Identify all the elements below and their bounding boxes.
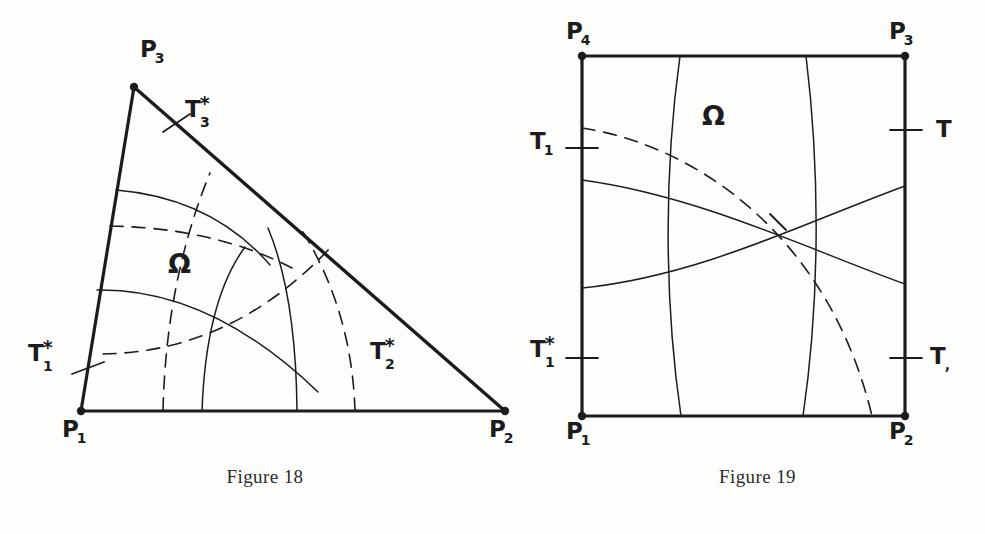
tick-label-t1-star: T*1 <box>28 342 54 365</box>
vertex-dot-p4 <box>578 52 586 60</box>
figure-18: P3 P1 P2 T*1 T*2 T*3 Ω Figure 18 <box>0 0 530 534</box>
vertex-dot-p3 <box>130 83 138 91</box>
vertex-label-p2: P2 <box>889 420 916 443</box>
solid-curve-horizontal-upper <box>582 180 905 284</box>
label-subscript: 3 <box>200 115 210 129</box>
vertex-label-p3: P3 <box>889 20 916 43</box>
label-subscript: 3 <box>155 50 165 66</box>
label-base: T <box>936 116 952 142</box>
tick-label-t-upper-right: T <box>936 118 952 141</box>
figure-19-drawing <box>530 0 985 534</box>
solid-curve-vertical-right <box>803 56 816 416</box>
label-subscript: 1 <box>77 430 87 446</box>
label-star: * <box>200 92 210 114</box>
solid-arc-inner <box>97 290 318 392</box>
tick-label-t1-star: T*1 <box>530 338 556 361</box>
tick-mark-center-cross <box>770 214 786 230</box>
label-subscript: 1 <box>581 432 591 448</box>
dashed-curve-diagonal <box>582 128 872 416</box>
label-subscript: 1 <box>43 359 53 373</box>
vertex-label-p2: P2 <box>489 418 516 441</box>
tick-label-t2-star: T*2 <box>370 340 396 363</box>
figure-19-caption: Figure 19 <box>530 466 985 488</box>
label-subscript: 2 <box>504 430 514 446</box>
figure-18-caption: Figure 18 <box>0 466 530 488</box>
figure-18-drawing <box>0 0 530 534</box>
triangle-edge-left <box>81 87 134 411</box>
solid-curve-vertical-left <box>668 56 681 416</box>
vertex-label-p4: P4 <box>566 20 593 43</box>
label-subscript: 1 <box>545 355 555 369</box>
omega-symbol-fig18: Ω <box>168 248 191 279</box>
vertex-dot-p2 <box>501 407 509 415</box>
tick-label-t-lower-right: T, <box>930 345 951 368</box>
label-base: T <box>185 96 201 122</box>
label-subscript: 2 <box>904 432 914 448</box>
label-subscript: 1 <box>544 142 554 158</box>
solid-curve-left <box>202 247 245 411</box>
label-subscript: , <box>945 357 950 373</box>
label-subscript: 3 <box>904 32 914 48</box>
tick-label-t3-star: T*3 <box>185 98 211 121</box>
figure-19: P4 P3 P1 P2 T1 T*1 T T, Ω Figure 19 <box>530 0 985 534</box>
label-star: * <box>43 336 53 358</box>
label-star: * <box>385 334 395 356</box>
label-subscript: 4 <box>581 32 591 48</box>
dashed-arc-outer <box>103 248 330 354</box>
vertex-label-p1: P1 <box>62 418 89 441</box>
label-base: T <box>530 336 546 362</box>
omega-symbol-fig19: Ω <box>702 100 725 131</box>
tick-label-t1: T1 <box>530 130 555 153</box>
figure-page: P3 P1 P2 T*1 T*2 T*3 Ω Figure 18 <box>0 0 985 534</box>
label-star: * <box>545 332 555 354</box>
solid-curve-right <box>268 228 297 411</box>
label-base: T <box>370 338 386 364</box>
label-base: T <box>930 343 946 369</box>
vertex-dot-p3 <box>901 52 909 60</box>
vertex-dot-p1 <box>77 407 85 415</box>
vertex-label-p3: P3 <box>140 38 167 61</box>
dashed-arc-upper <box>110 226 292 268</box>
label-subscript: 2 <box>385 357 395 371</box>
dashed-curve-left <box>163 173 210 411</box>
label-base: T <box>28 340 44 366</box>
vertex-label-p1: P1 <box>566 420 593 443</box>
